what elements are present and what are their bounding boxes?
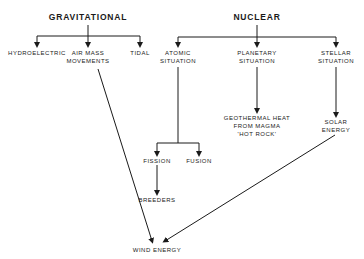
node-geo-line2: FROM MAGMA (224, 122, 291, 130)
node-solar-line2: ENERGY (322, 126, 350, 134)
node-atomic-situation: ATOMIC SITUATION (160, 49, 196, 65)
node-fusion: FUSION (186, 157, 212, 165)
node-nuclear: NUCLEAR (233, 13, 280, 21)
node-atomic-line2: SITUATION (160, 57, 196, 65)
node-air-mass-line2: MOVEMENTS (66, 57, 109, 65)
node-planetary-line2: SITUATION (237, 57, 277, 65)
node-air-mass-movements: AIR MASS MOVEMENTS (66, 49, 109, 65)
node-geothermal-heat: GEOTHERMAL HEAT FROM MAGMA 'HOT ROCK' (224, 114, 291, 138)
node-tidal: TIDAL (130, 49, 150, 57)
node-geo-line3: 'HOT ROCK' (224, 130, 291, 138)
node-stellar-line1: STELLAR (318, 49, 354, 57)
node-breeders: BREEDERS (138, 196, 175, 204)
node-atomic-line1: ATOMIC (160, 49, 196, 57)
node-stellar-line2: SITUATION (318, 57, 354, 65)
node-solar-energy: SOLAR ENERGY (322, 118, 350, 134)
node-gravitational: GRAVITATIONAL (49, 13, 127, 21)
node-fission: FISSION (143, 157, 171, 165)
node-wind-energy: WIND ENERGY (133, 246, 182, 254)
node-hydroelectric: HYDROELECTRIC (8, 49, 66, 57)
node-planetary-line1: PLANETARY (237, 49, 277, 57)
node-air-mass-line1: AIR MASS (66, 49, 109, 57)
node-planetary-situation: PLANETARY SITUATION (237, 49, 277, 65)
node-solar-line1: SOLAR (322, 118, 350, 126)
node-stellar-situation: STELLAR SITUATION (318, 49, 354, 65)
node-geo-line1: GEOTHERMAL HEAT (224, 114, 291, 122)
diagram-connectors (0, 0, 364, 259)
